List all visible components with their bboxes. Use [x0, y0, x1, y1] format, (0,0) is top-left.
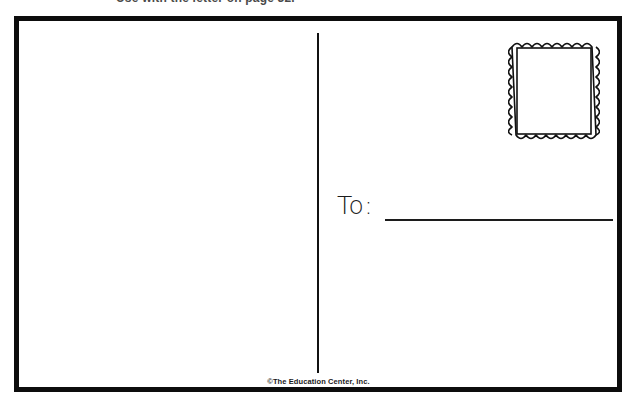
center-divider	[317, 33, 319, 373]
address-to-row: To:	[337, 193, 609, 225]
header-text-fragment: Use with the letter on page 32.	[0, 0, 637, 9]
to-label: To:	[337, 193, 373, 219]
header-fragment-label: Use with the letter on page 32.	[116, 0, 295, 5]
copyright-credit: ©The Education Center, Inc.	[0, 377, 637, 386]
address-area: To:	[323, 27, 615, 379]
postage-stamp-icon	[508, 39, 600, 143]
postcard-body: To:	[19, 21, 617, 387]
postcard-frame: To:	[14, 16, 622, 392]
message-area[interactable]	[25, 27, 313, 379]
postcard-page: Use with the letter on page 32. To:	[0, 0, 637, 407]
address-write-line[interactable]	[385, 219, 613, 221]
stamp-outline-svg	[508, 39, 600, 143]
